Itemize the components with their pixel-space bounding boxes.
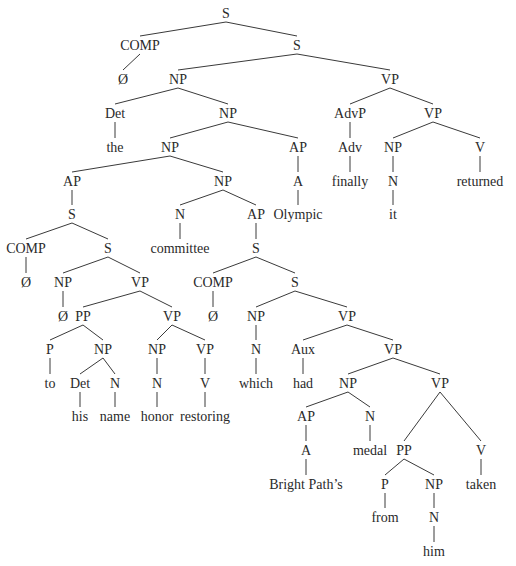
tree-node-label: N (175, 207, 185, 222)
tree-labels: SCOMPØSNPVPDettheNPNPAPAOlympicAdvPAdvfi… (6, 6, 503, 559)
tree-node-label: Det (70, 376, 90, 391)
tree-node-label: N (251, 342, 261, 357)
tree-edge (170, 156, 223, 172)
tree-edge (404, 392, 440, 441)
tree-node-label: S (222, 6, 230, 21)
tree-node-label: AP (289, 140, 307, 155)
tree-node-label: S (293, 38, 301, 53)
tree-node-label: COMP (193, 275, 233, 290)
tree-edge (140, 291, 172, 307)
tree-leaf-word: from (371, 510, 398, 525)
tree-node-label: S (291, 275, 299, 290)
tree-edge (350, 88, 390, 104)
tree-edge (26, 223, 72, 239)
tree-node-label: NP (94, 342, 112, 357)
tree-node-label: V (475, 140, 485, 155)
tree-edge (390, 88, 433, 104)
tree-leaf-word: taken (466, 477, 496, 492)
tree-leaf-word: the (106, 140, 123, 155)
tree-edge (178, 54, 297, 70)
tree-node-label: AP (63, 174, 81, 189)
tree-node-label: VP (163, 309, 181, 324)
tree-edge (170, 122, 228, 138)
tree-leaf-word: him (423, 544, 445, 559)
tree-leaf-word: finally (332, 174, 369, 189)
tree-node-label: V (476, 443, 486, 458)
tree-edge (297, 54, 390, 70)
tree-leaf-word: to (45, 376, 56, 391)
tree-leaf-word: honor (141, 409, 174, 424)
tree-edge (404, 459, 434, 475)
tree-edge (440, 392, 481, 441)
tree-leaf-word: restoring (180, 409, 230, 424)
tree-node-label: VP (196, 342, 214, 357)
tree-edge (80, 358, 103, 374)
tree-edge (83, 291, 140, 307)
tree-node-label: A (293, 174, 304, 189)
tree-node-label: A (301, 443, 312, 458)
tree-edge (72, 156, 170, 172)
syntax-tree: SCOMPØSNPVPDettheNPNPAPAOlympicAdvPAdvfi… (0, 0, 516, 566)
tree-leaf-word: had (293, 376, 313, 391)
tree-node-label: NP (384, 140, 402, 155)
tree-node-label: Adv (338, 140, 362, 155)
tree-node-label: NP (214, 174, 232, 189)
tree-edge (347, 325, 393, 340)
tree-node-label: Det (105, 106, 125, 121)
tree-node-label: NP (161, 140, 179, 155)
tree-node-label: AdvP (334, 106, 366, 121)
tree-node-label: N (152, 376, 162, 391)
tree-edge (83, 325, 103, 340)
tree-node-label: P (46, 342, 54, 357)
tree-node-label: Aux (291, 342, 315, 357)
tree-node-label: VP (384, 342, 402, 357)
tree-edge (123, 54, 140, 70)
tree-edge (303, 325, 347, 340)
tree-node-label: N (110, 376, 120, 391)
tree-edge (228, 122, 298, 138)
tree-node-label: N (388, 174, 398, 189)
tree-leaf-word: medal (353, 443, 387, 458)
tree-leaf-word: which (239, 376, 273, 391)
tree-node-label: NP (425, 477, 443, 492)
tree-node-label: AP (247, 207, 265, 222)
tree-edge (50, 325, 83, 340)
tree-node-label: COMP (6, 241, 46, 256)
tree-leaf-word: returned (457, 174, 504, 189)
tree-node-label: VP (431, 376, 449, 391)
tree-node-label: S (252, 241, 260, 256)
tree-node-label: S (68, 207, 76, 222)
tree-node-label: VP (338, 309, 356, 324)
tree-edge (306, 392, 348, 407)
tree-edge (393, 122, 433, 138)
tree-edge (63, 257, 108, 273)
tree-edge (385, 459, 404, 475)
tree-edge (213, 257, 256, 273)
tree-node-label: VP (131, 275, 149, 290)
tree-node-label: N (365, 409, 375, 424)
tree-node-label: COMP (120, 38, 160, 53)
tree-leaf-word: committee (150, 241, 209, 256)
tree-edge (393, 358, 440, 374)
tree-node-label: NP (339, 376, 357, 391)
tree-node-label: PP (396, 443, 412, 458)
tree-node-label: PP (75, 309, 91, 324)
tree-node-label: NP (169, 72, 187, 87)
tree-edge (172, 325, 205, 340)
tree-node-label: VP (381, 72, 399, 87)
tree-node-label: V (200, 376, 210, 391)
tree-edges (26, 22, 481, 542)
tree-leaf-word: Bright Path’s (269, 477, 343, 492)
tree-edge (115, 88, 178, 104)
tree-leaf-word: it (389, 207, 397, 222)
tree-node-label: NP (247, 309, 265, 324)
tree-edge (256, 257, 295, 273)
tree-node-label: VP (424, 106, 442, 121)
tree-edge (108, 257, 140, 273)
tree-edge (140, 22, 226, 36)
tree-edge (348, 358, 393, 374)
tree-node-label: S (104, 241, 112, 256)
tree-edge (72, 223, 108, 239)
tree-leaf-word: his (72, 409, 88, 424)
tree-leaf-word: Ø (208, 309, 218, 324)
